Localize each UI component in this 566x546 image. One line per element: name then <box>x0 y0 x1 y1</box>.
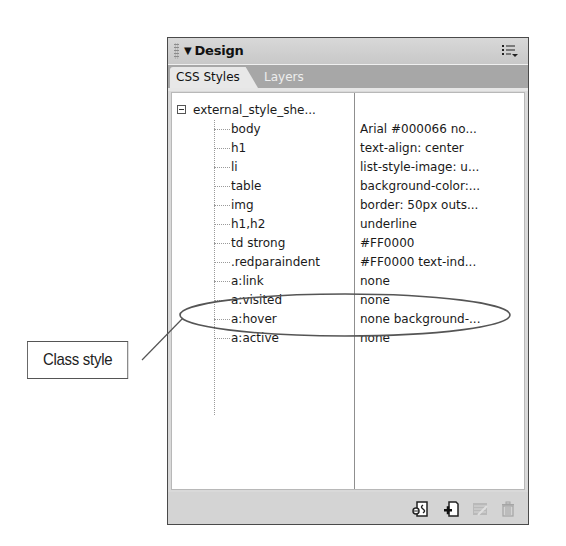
rule-row-h1[interactable]: h1text-align: center <box>172 139 524 158</box>
panel-tabs: CSS Styles Layers <box>168 65 528 91</box>
tree-branch-line <box>214 243 230 244</box>
rule-row-a-active[interactable]: a:activenone <box>172 329 524 348</box>
tree-branch-line <box>214 186 230 187</box>
rule-selector: a:hover <box>231 310 277 329</box>
rule-row-li[interactable]: lilist-style-image: u... <box>172 158 524 177</box>
panel-title[interactable]: ▼Design <box>184 43 244 58</box>
tree-branch-line <box>214 300 230 301</box>
tree-branch-line <box>214 167 230 168</box>
rule-properties: list-style-image: u... <box>360 158 479 177</box>
rule-row-h1-h2[interactable]: h1,h2underline <box>172 215 524 234</box>
rule-selector: img <box>231 196 254 215</box>
rule-row-table[interactable]: tablebackground-color:... <box>172 177 524 196</box>
tab-css-styles[interactable]: CSS Styles <box>170 67 258 88</box>
rule-properties: Arial #000066 no... <box>360 120 477 139</box>
rule-row-td-strong[interactable]: td strong#FF0000 <box>172 234 524 253</box>
rule-selector: h1,h2 <box>231 215 265 234</box>
panel-titlebar[interactable]: ▼Design <box>168 38 528 65</box>
rule-properties: text-align: center <box>360 139 464 158</box>
style-sheet-name: external_style_she... <box>193 101 316 120</box>
collapse-toggle-icon[interactable] <box>177 105 186 114</box>
rule-selector: li <box>231 158 238 177</box>
new-css-rule-icon[interactable] <box>443 501 459 517</box>
rule-row-a-link[interactable]: a:linknone <box>172 272 524 291</box>
gripper-icon[interactable] <box>174 43 179 59</box>
rule-selector: table <box>231 177 261 196</box>
rule-row-a-visited[interactable]: a:visitednone <box>172 291 524 310</box>
collapse-arrow-icon[interactable]: ▼ <box>184 45 192 56</box>
rule-properties: #FF0000 <box>360 234 414 253</box>
tree-branch-line <box>214 129 230 130</box>
rule-selector: a:active <box>231 329 279 348</box>
tree-branch-line <box>214 262 230 263</box>
rule-row-body[interactable]: bodyArial #000066 no... <box>172 120 524 139</box>
css-rules-tree[interactable]: external_style_she... bodyArial #000066 … <box>171 92 525 490</box>
rule-properties: #FF0000 text-ind... <box>360 253 476 272</box>
rule-selector: body <box>231 120 261 139</box>
panel-footer-toolbar <box>168 492 528 524</box>
rule-selector: .redparaindent <box>231 253 320 272</box>
edit-style-icon[interactable] <box>472 501 488 517</box>
tree-branch-line <box>214 338 230 339</box>
tab-layers[interactable]: Layers <box>258 67 320 88</box>
rule-row-redparaindent[interactable]: .redparaindent#FF0000 text-ind... <box>172 253 524 272</box>
rule-properties: none <box>360 291 390 310</box>
attach-style-sheet-icon[interactable] <box>412 501 428 517</box>
trash-icon[interactable] <box>500 501 516 517</box>
rule-row-a-hover[interactable]: a:hovernone background-... <box>172 310 524 329</box>
rule-selector: h1 <box>231 139 246 158</box>
rule-properties: none <box>360 329 390 348</box>
rule-row-img[interactable]: imgborder: 50px outs... <box>172 196 524 215</box>
tree-branch-line <box>214 319 230 320</box>
class-style-callout: Class style <box>27 341 128 379</box>
tree-root-row[interactable]: external_style_she... <box>172 101 524 120</box>
rule-properties: background-color:... <box>360 177 480 196</box>
design-panel: ▼Design CSS Styles Layers external_style… <box>167 37 529 525</box>
rule-properties: border: 50px outs... <box>360 196 478 215</box>
rule-properties: none background-... <box>360 310 481 329</box>
tree-branch-line <box>214 148 230 149</box>
rule-selector: a:link <box>231 272 264 291</box>
tree-branch-line <box>214 281 230 282</box>
rule-selector: td strong <box>231 234 285 253</box>
rule-properties: underline <box>360 215 417 234</box>
rule-properties: none <box>360 272 390 291</box>
tree-branch-line <box>214 224 230 225</box>
panel-options-icon[interactable] <box>502 44 518 58</box>
tree-branch-line <box>214 205 230 206</box>
rule-selector: a:visited <box>231 291 282 310</box>
